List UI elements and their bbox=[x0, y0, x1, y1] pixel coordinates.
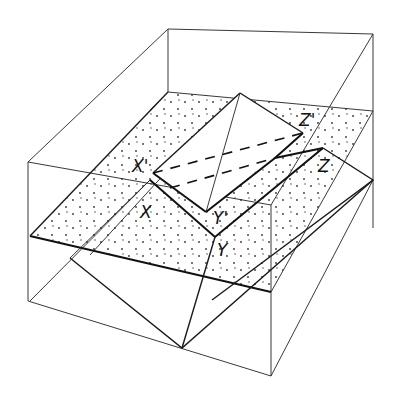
label-y-prime: Y' bbox=[213, 208, 228, 228]
label-z-prime: Z' bbox=[298, 110, 315, 130]
label-z: Z bbox=[317, 156, 330, 176]
block-diagram: X' Z' Z X Y' Y bbox=[0, 0, 394, 395]
label-y: Y bbox=[217, 240, 229, 260]
label-x: X bbox=[139, 202, 152, 222]
label-x-prime: X' bbox=[131, 156, 148, 176]
